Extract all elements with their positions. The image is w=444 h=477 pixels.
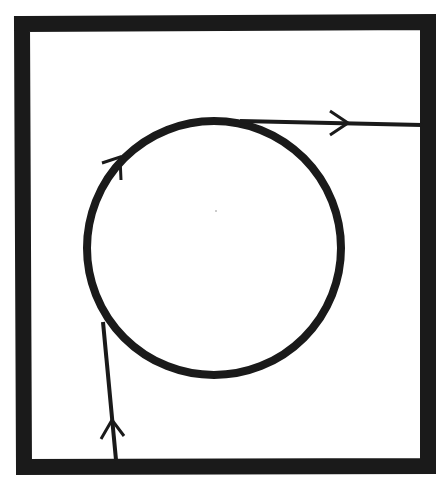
frame-boundary bbox=[22, 22, 428, 467]
diagram-canvas bbox=[0, 0, 444, 477]
entry-path-line bbox=[103, 322, 116, 460]
exit-path-line bbox=[240, 121, 422, 125]
circle-loop bbox=[87, 121, 341, 375]
center-dot bbox=[215, 210, 217, 212]
